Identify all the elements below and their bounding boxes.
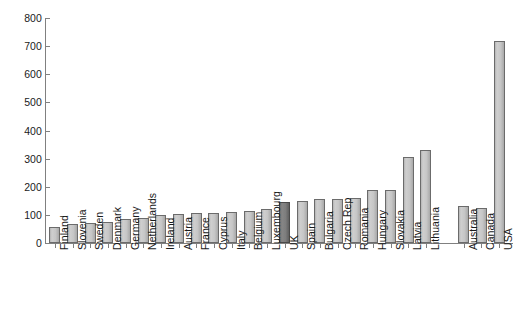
y-axis-tick-mark [46, 187, 50, 188]
x-axis-category-label: Slovakia [395, 210, 406, 250]
x-axis-tick-mark [338, 244, 339, 248]
x-axis-category-label: Spain [306, 223, 317, 250]
x-axis-category-label: Cyprus [218, 216, 229, 250]
y-axis-tick-mark [46, 131, 50, 132]
x-axis-tick-mark [464, 244, 465, 248]
x-axis-category-label: Denmark [112, 207, 123, 250]
x-axis-tick-mark [161, 244, 162, 248]
x-axis-category-label: UK [289, 235, 300, 250]
x-axis-tick-mark [143, 244, 144, 248]
x-axis-tick-mark [426, 244, 427, 248]
x-axis-tick-mark [320, 244, 321, 248]
y-axis-tick-mark [46, 102, 50, 103]
x-axis-tick-mark [391, 244, 392, 248]
x-axis-category-label: Bulgaria [324, 211, 335, 250]
y-axis-tick-mark [46, 18, 50, 19]
x-axis-category-label: France [200, 217, 211, 250]
x-axis-category-label: Romania [359, 208, 370, 250]
y-axis-tick-mark [46, 159, 50, 160]
x-axis-tick-mark [196, 244, 197, 248]
x-axis-tick-mark [249, 244, 250, 248]
x-axis-category-label: Germany [130, 206, 141, 250]
x-axis-category-label: Lithuania [430, 207, 441, 250]
y-axis-tick-mark [46, 46, 50, 47]
x-axis-category-label: Ireland [165, 218, 176, 250]
x-axis-category-label: Sweden [94, 212, 105, 250]
x-axis-tick-mark [302, 244, 303, 248]
x-axis-tick-mark [108, 244, 109, 248]
x-axis-tick-mark [481, 244, 482, 248]
y-axis-tick-mark [46, 74, 50, 75]
x-axis-tick-mark [373, 244, 374, 248]
y-axis-tick-mark [46, 243, 50, 244]
x-axis-tick-mark [179, 244, 180, 248]
x-axis-category-label: Austria [183, 217, 194, 250]
x-axis-category-label: Slovenia [77, 209, 88, 250]
x-axis-tick-mark [126, 244, 127, 248]
x-axis-tick-mark [355, 244, 356, 248]
x-axis-tick-mark [214, 244, 215, 248]
x-axis-tick-mark [232, 244, 233, 248]
x-axis-category-label: Italy [236, 230, 247, 250]
x-axis-category-label: Belgium [253, 212, 264, 250]
x-axis-category-label: Australia [468, 209, 479, 250]
x-axis-category-label: Czech Rep [342, 198, 353, 250]
x-axis-tick-mark [90, 244, 91, 248]
x-axis-category-label: Hungary [377, 210, 388, 250]
x-axis-category-label: Latvia [412, 222, 423, 250]
bar-chart: 0100200300400500600700800 FinlandSloveni… [0, 0, 514, 329]
y-axis-tick-mark [46, 215, 50, 216]
x-axis-tick-mark [267, 244, 268, 248]
x-axis-category-label: Netherlands [147, 193, 158, 250]
x-axis-tick-mark [285, 244, 286, 248]
x-axis-category-label: Luxembourg [271, 191, 282, 250]
x-axis-tick-mark [499, 244, 500, 248]
x-axis-category-label: Finland [59, 215, 70, 250]
x-axis-tick-mark [408, 244, 409, 248]
x-axis-category-label: USA [503, 228, 514, 250]
x-axis-tick-mark [73, 244, 74, 248]
x-axis-tick-mark [55, 244, 56, 248]
x-axis-category-label: Canada [485, 213, 496, 250]
